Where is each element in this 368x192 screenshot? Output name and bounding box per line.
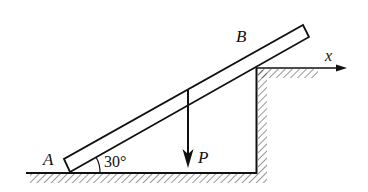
label-point-a: A	[43, 151, 53, 168]
label-point-b: B	[236, 28, 246, 45]
label-x-axis: x	[325, 48, 332, 64]
bar-ab	[64, 25, 309, 172]
statics-diagram: A B x P 30°	[0, 0, 368, 192]
wall-hatching	[258, 70, 267, 183]
label-angle: 30°	[104, 154, 126, 170]
angle-arc	[96, 157, 100, 173]
ledge-hatching	[258, 69, 318, 78]
x-axis-arrowhead-icon	[336, 65, 347, 72]
label-force-p: P	[198, 149, 208, 166]
diagram-canvas	[0, 0, 368, 192]
floor-hatching	[30, 174, 258, 183]
